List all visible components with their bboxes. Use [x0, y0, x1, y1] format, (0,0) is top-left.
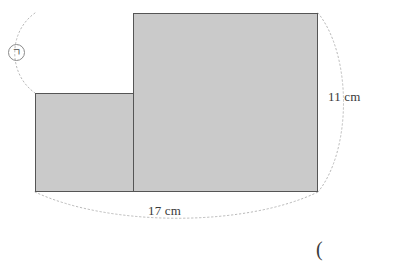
unshaded-square	[35, 13, 134, 94]
stray-parenthesis-text: (	[316, 239, 323, 259]
figure-canvas: ㄱ 11 cm 17 cm (	[0, 0, 418, 267]
height-dimension-label: 11 cm	[328, 90, 361, 103]
circled-marker-label: ㄱ	[12, 48, 21, 58]
vertical-divider-line	[133, 13, 134, 192]
width-dimension-label: 17 cm	[148, 204, 181, 217]
circled-unknown-marker: ㄱ	[8, 44, 25, 61]
